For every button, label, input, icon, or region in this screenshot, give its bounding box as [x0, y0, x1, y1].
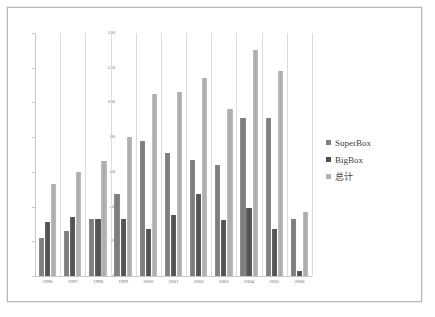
x-axis-tick-label: 2000 [136, 279, 161, 284]
bar[interactable] [171, 215, 176, 276]
x-axis-tick-label: 1997 [60, 279, 85, 284]
gridline [262, 33, 263, 276]
bar-group [240, 33, 257, 276]
bar[interactable] [70, 217, 75, 276]
bar[interactable] [202, 78, 207, 276]
y-axis-tick-mark [32, 276, 35, 277]
legend-swatch-icon [326, 140, 331, 145]
bar-group [190, 33, 207, 276]
x-axis-tick-label: 1998 [85, 279, 110, 284]
bar[interactable] [140, 141, 145, 276]
x-axis-tick-label: 1999 [111, 279, 136, 284]
bar[interactable] [272, 229, 277, 276]
gridline [111, 33, 112, 276]
bar[interactable] [278, 71, 283, 276]
bar-group [114, 33, 131, 276]
y-axis-tick-mark [32, 207, 35, 208]
bar[interactable] [177, 92, 182, 276]
bar-group [266, 33, 283, 276]
bar-group [291, 33, 308, 276]
bar[interactable] [152, 94, 157, 276]
bar[interactable] [291, 219, 296, 276]
legend-item-total[interactable]: 总计 [326, 168, 414, 185]
bar-group [215, 33, 232, 276]
y-axis-tick-mark [32, 68, 35, 69]
bar-group [64, 33, 81, 276]
bar[interactable] [51, 184, 56, 276]
gridline [236, 33, 237, 276]
bar[interactable] [45, 222, 50, 276]
bar[interactable] [253, 50, 258, 276]
gridline [136, 33, 137, 276]
chart-legend: SuperBox BigBox 总计 [326, 134, 414, 185]
chart-frame: 020406080100120140 199619971998199920002… [7, 7, 422, 302]
x-axis-tick-label: 1996 [35, 279, 60, 284]
bar[interactable] [297, 271, 302, 276]
y-axis-tick-mark [32, 102, 35, 103]
bar[interactable] [246, 208, 251, 276]
bar[interactable] [64, 231, 69, 276]
bar[interactable] [266, 118, 271, 276]
y-axis-tick-mark [32, 172, 35, 173]
bar[interactable] [215, 165, 220, 276]
x-axis-tick-label: 2002 [186, 279, 211, 284]
y-axis-tick-mark [32, 137, 35, 138]
gridline [85, 33, 86, 276]
gridline [161, 33, 162, 276]
x-axis-tick-label: 2005 [262, 279, 287, 284]
gridline [287, 33, 288, 276]
bar[interactable] [89, 219, 94, 276]
y-axis-line [35, 33, 36, 277]
gridline [312, 33, 313, 276]
bar[interactable] [227, 109, 232, 276]
bar[interactable] [190, 160, 195, 276]
bar-group [89, 33, 106, 276]
y-axis-tick-mark [32, 33, 35, 34]
bar[interactable] [39, 238, 44, 276]
bar[interactable] [221, 220, 226, 276]
bar-group [39, 33, 56, 276]
legend-swatch-icon [326, 157, 331, 162]
gridline [211, 33, 212, 276]
x-axis-tick-label: 2006 [287, 279, 312, 284]
legend-label: SuperBox [335, 138, 371, 148]
bar[interactable] [76, 172, 81, 276]
bar[interactable] [121, 219, 126, 276]
bar[interactable] [101, 161, 106, 276]
x-axis-tick-label: 2001 [161, 279, 186, 284]
bar[interactable] [114, 194, 119, 276]
x-axis-tick-label: 2004 [236, 279, 261, 284]
bar-group [140, 33, 157, 276]
gridline [60, 33, 61, 276]
bar[interactable] [196, 194, 201, 276]
bar[interactable] [146, 229, 151, 276]
bar-group [165, 33, 182, 276]
gridline [186, 33, 187, 276]
bar[interactable] [95, 219, 100, 276]
legend-label: BigBox [335, 155, 363, 165]
legend-swatch-icon [326, 174, 331, 179]
legend-label: 总计 [335, 172, 353, 182]
y-axis-tick-mark [32, 241, 35, 242]
chart-screenshot: 020406080100120140 199619971998199920002… [0, 0, 435, 317]
x-axis-line [35, 276, 312, 277]
bar[interactable] [240, 118, 245, 276]
x-axis-tick-label: 2003 [211, 279, 236, 284]
bar[interactable] [127, 137, 132, 276]
bar[interactable] [165, 153, 170, 276]
legend-item-superbox[interactable]: SuperBox [326, 134, 414, 151]
bar[interactable] [303, 212, 308, 276]
chart-area: 020406080100120140 199619971998199920002… [8, 8, 421, 301]
legend-item-bigbox[interactable]: BigBox [326, 151, 414, 168]
